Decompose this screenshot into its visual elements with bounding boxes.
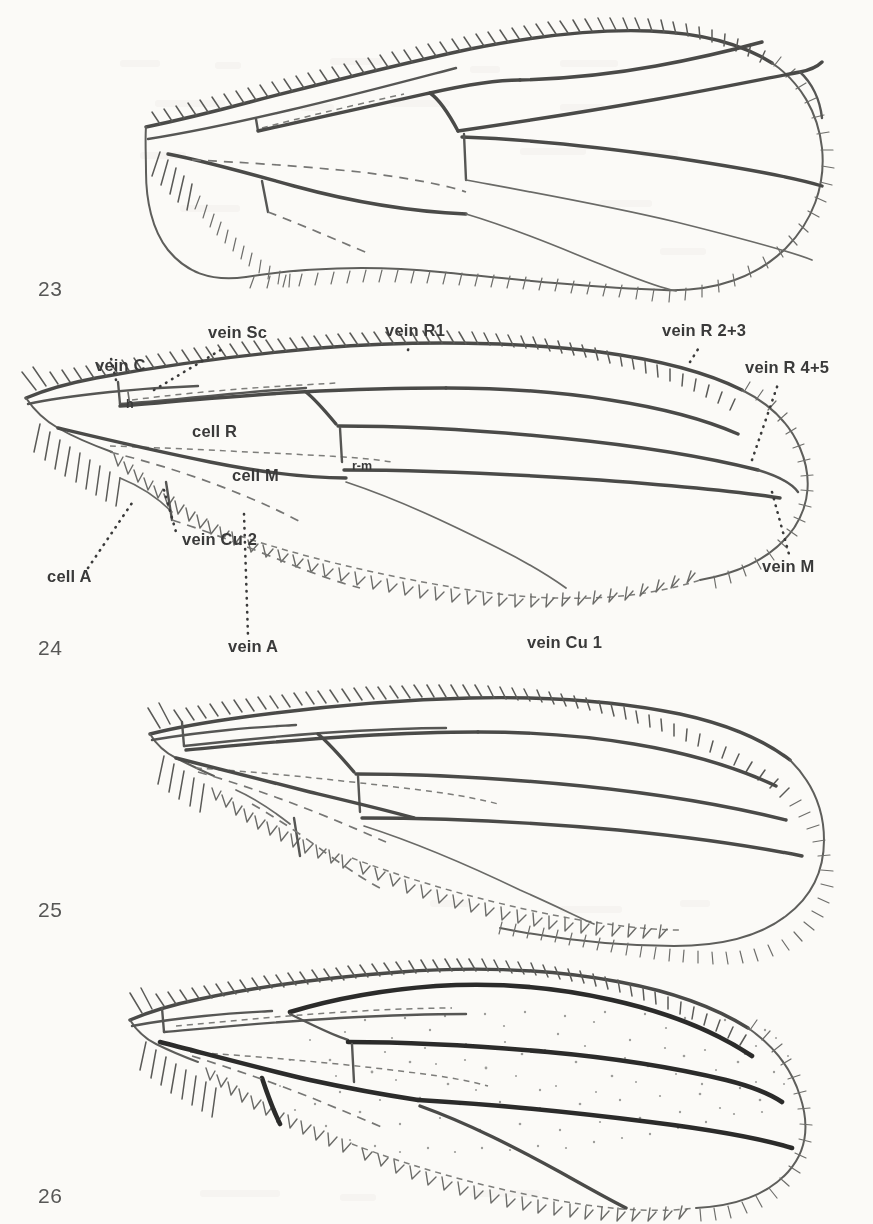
label-vein-cu1: vein Cu 1	[527, 633, 602, 651]
label-vein-r4-5: vein R 4+5	[745, 358, 829, 376]
label-vein-c: vein C	[95, 356, 146, 374]
wing-venation-plate: 23	[0, 0, 873, 1224]
figure-number-23: 23	[38, 277, 62, 300]
label-vein-m: vein M	[762, 557, 815, 575]
label-cell-a: cell A	[47, 567, 92, 585]
label-crossvein-rm: r-m	[352, 459, 372, 473]
label-crossvein-h: h	[126, 397, 134, 411]
label-vein-r2-3: vein R 2+3	[662, 321, 746, 339]
figure-number-25: 25	[38, 898, 62, 921]
label-vein-cu2: vein Cu 2	[182, 530, 257, 548]
figure-number-24: 24	[38, 636, 62, 659]
figure-number-26: 26	[38, 1184, 62, 1207]
label-vein-sc: vein Sc	[208, 323, 267, 341]
label-cell-r: cell R	[192, 422, 237, 440]
label-cell-m: cell M	[232, 466, 279, 484]
label-vein-a: vein A	[228, 637, 278, 655]
label-vein-r1: vein R1	[385, 321, 445, 339]
